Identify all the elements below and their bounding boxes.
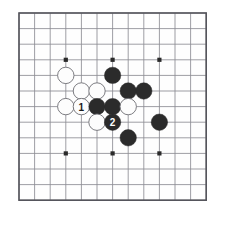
- star-point: [64, 151, 68, 155]
- white-stone-disc: [73, 83, 89, 99]
- star-point: [64, 58, 68, 62]
- black-stone[interactable]: [104, 67, 120, 83]
- black-stone-disc: [120, 130, 136, 146]
- black-stone[interactable]: [151, 114, 167, 130]
- white-stone-disc: [120, 98, 136, 114]
- black-stone-disc: [120, 83, 136, 99]
- white-stone[interactable]: [89, 114, 105, 130]
- stone-move-number: 1: [79, 102, 85, 113]
- white-stone-disc: [58, 67, 74, 83]
- black-stone[interactable]: 2: [104, 114, 120, 130]
- white-stone[interactable]: [58, 98, 74, 114]
- white-stone[interactable]: [89, 83, 105, 99]
- black-stone[interactable]: [89, 98, 105, 114]
- black-stone[interactable]: [120, 83, 136, 99]
- black-stone[interactable]: [136, 83, 152, 99]
- star-point: [157, 58, 161, 62]
- star-point: [111, 151, 115, 155]
- black-stone[interactable]: [120, 130, 136, 146]
- go-board-canvas[interactable]: 12: [0, 0, 225, 227]
- black-stone-disc: [151, 114, 167, 130]
- white-stone-disc: [89, 114, 105, 130]
- white-stone[interactable]: [73, 83, 89, 99]
- white-stone[interactable]: [120, 98, 136, 114]
- go-board-container[interactable]: 12: [0, 0, 225, 227]
- stone-move-number: 2: [110, 117, 116, 128]
- white-stone[interactable]: [58, 67, 74, 83]
- white-stone-disc: [58, 98, 74, 114]
- white-stone[interactable]: 1: [73, 98, 89, 114]
- star-point: [111, 58, 115, 62]
- black-stone-disc: [136, 83, 152, 99]
- white-stone-disc: [89, 83, 105, 99]
- black-stone[interactable]: [104, 98, 120, 114]
- black-stone-disc: [104, 67, 120, 83]
- screenshot-root: 12: [0, 0, 225, 227]
- star-point: [157, 151, 161, 155]
- black-stone-disc: [89, 98, 105, 114]
- black-stone-disc: [104, 98, 120, 114]
